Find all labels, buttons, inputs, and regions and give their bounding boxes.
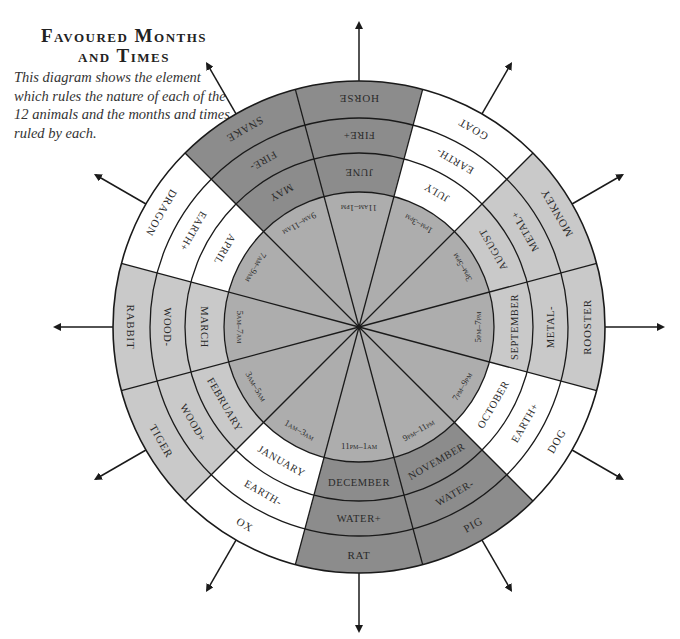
arrow-icon (207, 540, 236, 590)
arrow-icon (482, 540, 511, 590)
element-label-horse: Fire+ (343, 130, 375, 141)
arrow-icon (96, 450, 146, 479)
element-label-rabbit: Wood- (162, 307, 173, 346)
month-label-rabbit: March (199, 306, 210, 348)
element-label-rooster: Metal- (545, 306, 556, 348)
time-label-rooster: 5pm–7pm (473, 311, 483, 343)
arrow-icon (207, 64, 236, 114)
animal-label-rat: Rat (347, 549, 370, 561)
month-label-rat: December (328, 477, 390, 488)
arrow-icon (482, 64, 511, 114)
element-label-rat: Water+ (337, 513, 382, 524)
arrow-icon (96, 175, 146, 204)
animal-label-rabbit: Rabbit (125, 304, 137, 349)
center-dot (357, 325, 362, 330)
animal-label-horse: Horse (339, 93, 379, 105)
animal-label-rooster: Rooster (581, 299, 593, 355)
time-label-rat: 11pm–1am (341, 441, 378, 451)
month-label-rooster: September (509, 294, 520, 360)
month-label-horse: June (345, 167, 373, 178)
arrow-icon (572, 175, 622, 204)
arrow-icon (572, 450, 622, 479)
time-label-rabbit: 5am–7am (235, 311, 245, 345)
time-label-horse: 11am–1pm (340, 203, 377, 213)
zodiac-wheel: RatWater+December11pm–1amOxEarth-January… (0, 0, 680, 639)
